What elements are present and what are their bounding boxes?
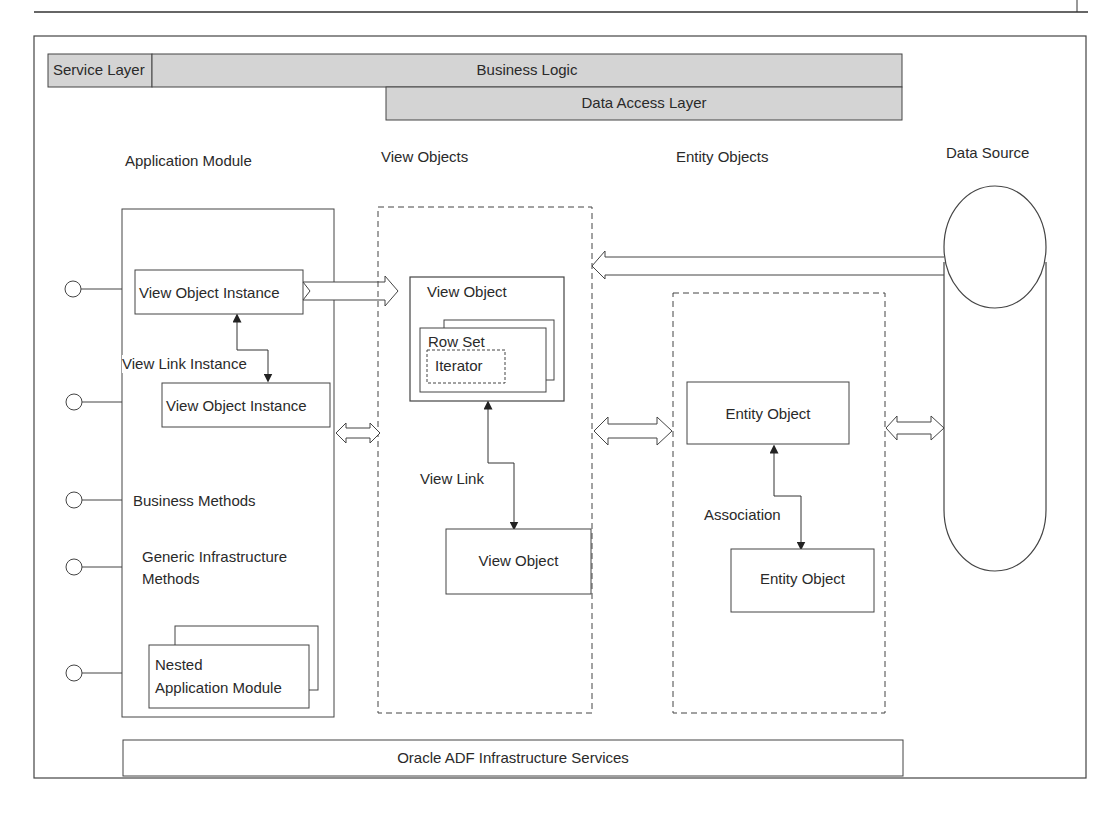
hollow-arrow-right-icon: [303, 276, 398, 306]
diagram-canvas: [0, 0, 1095, 833]
view-object-instance-label-1[interactable]: View Object Instance: [139, 284, 280, 302]
interface-circle-icon: [65, 281, 81, 297]
data-access-layer-label: Data Access Layer: [386, 94, 902, 112]
view-link-instance-label: View Link Instance: [122, 355, 247, 373]
view-object-instance-label-2[interactable]: View Object Instance: [166, 397, 307, 415]
generic-infra-label-line2: Methods: [142, 570, 200, 588]
double-arrow-eo-ds-icon: [886, 416, 944, 440]
column-heading-view-objects: View Objects: [381, 148, 468, 166]
association-connector: [774, 449, 801, 546]
association-label: Association: [704, 506, 781, 524]
service-layer-label: Service Layer: [53, 61, 145, 79]
double-arrow-am-vo-icon: [336, 423, 380, 443]
interface-lollipops: [65, 281, 122, 681]
entity-object-label-1[interactable]: Entity Object: [687, 405, 849, 423]
infrastructure-services-label: Oracle ADF Infrastructure Services: [123, 749, 903, 767]
page-header-rule: [34, 0, 1088, 12]
database-cylinder-icon: [944, 186, 1046, 571]
interface-circle-icon: [66, 394, 82, 410]
nested-am-front-box: [149, 645, 309, 708]
row-set-label[interactable]: Row Set: [428, 333, 485, 351]
interface-circle-icon: [66, 492, 82, 508]
nested-am-label-line1[interactable]: Nested: [155, 656, 203, 674]
double-arrow-vo-eo-icon: [594, 417, 672, 445]
nested-am-label-line2[interactable]: Application Module: [155, 679, 282, 697]
view-object-secondary-label[interactable]: View Object: [446, 552, 591, 570]
hollow-arrow-left-icon: [592, 251, 944, 279]
view-link-label: View Link: [420, 470, 484, 488]
column-heading-data-source: Data Source: [946, 144, 1029, 162]
business-methods-label: Business Methods: [133, 492, 256, 510]
column-heading-application-module: Application Module: [125, 152, 252, 170]
view-object-main-label[interactable]: View Object: [427, 283, 507, 301]
generic-infra-label-line1: Generic Infrastructure: [142, 548, 287, 566]
column-heading-entity-objects: Entity Objects: [676, 148, 769, 166]
interface-circle-icon: [66, 559, 82, 575]
view-link-connector: [488, 405, 514, 526]
business-logic-label: Business Logic: [152, 61, 902, 79]
entity-object-label-2[interactable]: Entity Object: [731, 570, 874, 588]
iterator-label[interactable]: Iterator: [435, 357, 483, 375]
interface-circle-icon: [66, 665, 82, 681]
entity-objects-container: [673, 293, 885, 713]
